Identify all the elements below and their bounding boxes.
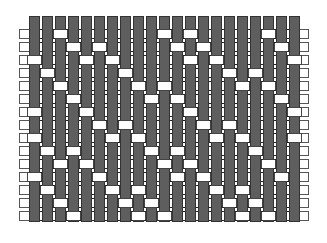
warp-strip (263, 16, 274, 222)
weft-edge-mark (157, 68, 159, 69)
weft-edge-mark (157, 133, 159, 134)
weft-edge-mark (274, 207, 276, 208)
weft-edge-mark (274, 168, 276, 169)
weft-edge-mark (209, 68, 211, 69)
weft-edge-mark (274, 159, 276, 160)
weft-edge-mark (40, 55, 42, 56)
weft-edge-mark (287, 155, 289, 156)
weft-edge-mark (79, 155, 81, 156)
weft-edge-mark (144, 77, 146, 78)
weft-edge-mark (261, 181, 263, 182)
weft-edge-mark (40, 107, 42, 108)
weft-edge-mark (118, 51, 120, 52)
weft-edge-mark (131, 90, 133, 91)
weft-edge-mark (222, 220, 224, 221)
weft-edge-mark (53, 120, 55, 121)
weft-edge-mark (105, 185, 107, 186)
weft-edge-mark (170, 220, 172, 221)
weft-edge-mark (157, 155, 159, 156)
weft-edge-mark (196, 207, 198, 208)
weft-edge-mark (261, 198, 263, 199)
weft-edge-mark (79, 77, 81, 78)
weft-edge-mark (131, 68, 133, 69)
weft-edge-mark (287, 29, 289, 30)
weft-edge-mark (183, 146, 185, 147)
weft-edge-mark (209, 198, 211, 199)
weft-edge-mark (261, 129, 263, 130)
weft-edge-mark (144, 142, 146, 143)
weft-edge-mark (105, 159, 107, 160)
weft-edge-mark (287, 207, 289, 208)
weft-edge-mark (118, 90, 120, 91)
weft-edge-mark (53, 129, 55, 130)
weft-edge-mark (144, 68, 146, 69)
weft-edge-mark (40, 38, 42, 39)
weft-edge-mark (79, 211, 81, 212)
warp-strip (146, 16, 157, 222)
weft-edge-mark (170, 120, 172, 121)
weft-edge-mark (53, 172, 55, 173)
weft-edge-mark (144, 38, 146, 39)
weft-edge-mark (183, 42, 185, 43)
weft-edge-mark (131, 194, 133, 195)
weft-edge-mark (261, 103, 263, 104)
weft-edge-mark (274, 198, 276, 199)
weft-edge-mark (209, 64, 211, 65)
warp-strip (81, 16, 92, 222)
weft-edge-mark (235, 129, 237, 130)
warp-strip (29, 16, 40, 222)
weft-edge-mark (196, 168, 198, 169)
weft-edge-mark (261, 207, 263, 208)
weft-edge-mark (105, 77, 107, 78)
weft-edge-mark (235, 29, 237, 30)
weft-edge-mark (261, 51, 263, 52)
weft-edge-mark (40, 181, 42, 182)
weft-edge-mark (274, 94, 276, 95)
weft-edge-mark (261, 172, 263, 173)
weft-edge-mark (92, 142, 94, 143)
weft-edge-mark (131, 29, 133, 30)
weft-edge-mark (53, 211, 55, 212)
weft-edge-mark (170, 81, 172, 82)
weft-edge-mark (118, 168, 120, 169)
weft-edge-mark (248, 194, 250, 195)
weft-edge-mark (222, 55, 224, 56)
weft-edge-mark (261, 168, 263, 169)
weft-edge-mark (235, 146, 237, 147)
weft-edge-mark (196, 181, 198, 182)
weft-edge-mark (118, 94, 120, 95)
weft-edge-mark (53, 55, 55, 56)
weft-edge-mark (235, 55, 237, 56)
weft-edge-mark (66, 90, 68, 91)
weft-edge-mark (196, 81, 198, 82)
weft-edge-mark (274, 81, 276, 82)
weft-edge-mark (53, 29, 55, 30)
weft-edge-mark (261, 146, 263, 147)
weft-edge-mark (105, 55, 107, 56)
weft-edge-mark (222, 133, 224, 134)
weft-edge-mark (287, 42, 289, 43)
weft-edge-mark (209, 42, 211, 43)
weft-edge-mark (131, 129, 133, 130)
weft-edge-mark (235, 90, 237, 91)
weft-edge-mark (248, 181, 250, 182)
weft-edge-mark (248, 42, 250, 43)
weft-edge-mark (105, 129, 107, 130)
weft-edge-mark (209, 146, 211, 147)
weft-edge-mark (131, 120, 133, 121)
weft-edge-mark (157, 159, 159, 160)
weft-edge-mark (157, 194, 159, 195)
weft-edge-mark (79, 146, 81, 147)
weft-edge-mark (196, 120, 198, 121)
weft-edge-mark (66, 181, 68, 182)
weft-edge-mark (261, 116, 263, 117)
weft-edge-mark (248, 185, 250, 186)
weft-edge-mark (235, 220, 237, 221)
weft-crossing (287, 133, 302, 143)
weft-edge-mark (118, 172, 120, 173)
weft-edge-mark (170, 168, 172, 169)
weft-edge-mark (222, 103, 224, 104)
weft-edge-mark (209, 168, 211, 169)
weft-edge-mark (196, 64, 198, 65)
weft-edge-mark (235, 172, 237, 173)
